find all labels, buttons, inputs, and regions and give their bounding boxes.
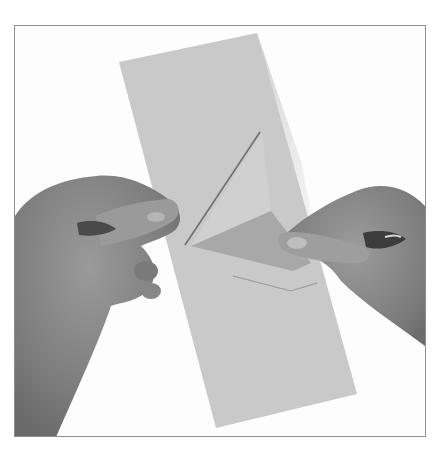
- left-finger-under: [134, 261, 158, 281]
- photo-frame: [14, 25, 426, 437]
- right-thumbnail: [287, 237, 307, 249]
- left-thumbnail: [147, 212, 165, 222]
- origami-photo: [15, 26, 425, 436]
